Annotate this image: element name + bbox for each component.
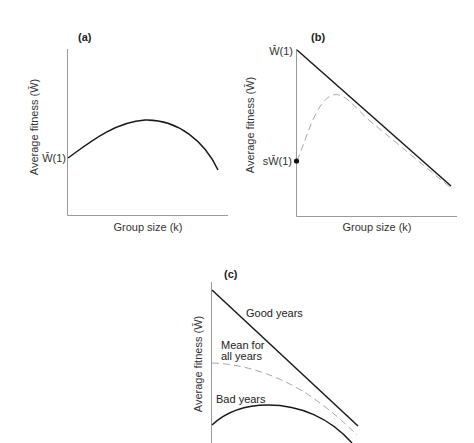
- panel-c-bad-years-curve: [212, 405, 352, 443]
- panel-c-bad-years-label: Bad years: [216, 393, 266, 405]
- panel-b: (b) W̄(1) sW̄(1) Average fitness (W̄) Gr…: [244, 31, 457, 233]
- panel-a: (a) W̄(1) Average fitness (W̄) Group siz…: [28, 31, 228, 233]
- panel-b-x-label: Group size (k): [342, 221, 411, 233]
- panel-b-y-label: Average fitness (W̄): [244, 77, 256, 173]
- panel-c-y-label: Average fitness (W̄): [192, 316, 204, 412]
- panel-b-dashed-curve: [297, 95, 451, 188]
- panel-c-good-years-label: Good years: [246, 307, 303, 319]
- panel-a-label: (a): [78, 31, 92, 43]
- panel-c: (c) Good years Mean for all years Bad ye…: [192, 268, 358, 443]
- panel-c-label: (c): [224, 268, 238, 280]
- panel-b-sw1-tick: sW̄(1): [263, 155, 292, 167]
- panel-c-mean-label-line2: all years: [221, 350, 262, 362]
- panel-b-solid-line: [297, 50, 451, 186]
- panel-a-fitness-curve: [68, 120, 218, 170]
- figure-canvas: (a) W̄(1) Average fitness (W̄) Group siz…: [0, 0, 474, 443]
- panel-b-w1-tick: W̄(1): [269, 45, 293, 57]
- panel-b-sw1-dot: [294, 158, 299, 163]
- panel-a-y-label: Average fitness (W̄): [28, 79, 40, 175]
- panel-a-x-label: Group size (k): [113, 221, 182, 233]
- panel-a-w1-tick: W̄(1): [42, 152, 66, 164]
- panel-b-label: (b): [311, 31, 325, 43]
